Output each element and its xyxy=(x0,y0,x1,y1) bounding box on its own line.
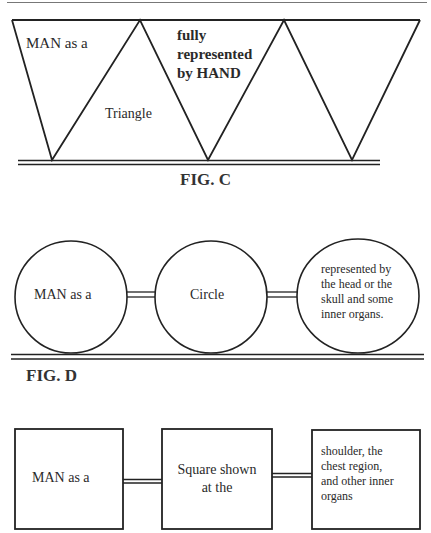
fig-d-desc-line-1: represented by xyxy=(321,262,393,277)
fig-e-label-man-as-a: MAN as a xyxy=(32,470,90,486)
fig-c-label-triangle: Triangle xyxy=(105,106,152,122)
fig-c-label-man-as-a: MAN as a xyxy=(26,35,88,52)
fig-e-desc-line-4: organs xyxy=(321,489,394,504)
fig-d-desc-line-2: the head or the xyxy=(321,277,393,292)
fig-d-label-circle: Circle xyxy=(190,287,224,303)
fig-e-desc-line-2: chest region, xyxy=(321,459,394,474)
fig-e-desc-line-1: shoulder, the xyxy=(321,444,394,459)
fig-d-desc-line-4: inner organs. xyxy=(321,307,393,322)
fig-d-label-description: represented by the head or the skull and… xyxy=(321,262,393,322)
fig-e-square-line-2: at the xyxy=(162,479,272,497)
fig-c-label-fully-represented: fully represented by HAND xyxy=(177,26,252,83)
fig-e-square-line-1: Square shown xyxy=(162,461,272,479)
fig-e-desc-line-3: and other inner xyxy=(321,474,394,489)
fig-d-label-man-as-a: MAN as a xyxy=(34,287,92,303)
fig-d-desc-line-3: skull and some xyxy=(321,292,393,307)
fig-c-label-fully: fully xyxy=(177,26,252,45)
fig-c-caption: FIG. C xyxy=(180,170,231,190)
fig-d-caption: FIG. D xyxy=(26,366,77,386)
fig-e-label-description: shoulder, the chest region, and other in… xyxy=(321,444,394,504)
fig-c-label-represented: represented xyxy=(177,45,252,64)
fig-e-label-square: Square shown at the xyxy=(162,461,272,497)
fig-d-baseline xyxy=(11,355,424,360)
fig-c-label-by-hand: by HAND xyxy=(177,64,252,83)
fig-c-baseline xyxy=(18,161,380,165)
